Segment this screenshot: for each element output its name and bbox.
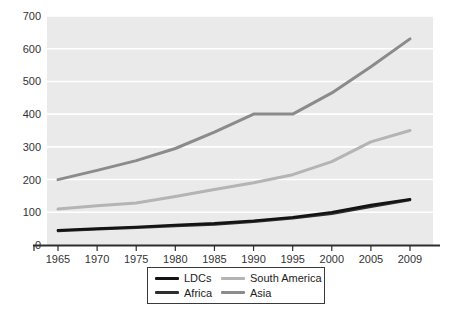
y-label-300: 300: [23, 141, 41, 153]
legend-label-south-america: South America: [250, 271, 322, 285]
x-label-1975: 1975: [124, 253, 148, 265]
x-label-1970: 1970: [85, 253, 109, 265]
x-label-1980: 1980: [163, 253, 187, 265]
legend-item-asia: Asia: [221, 286, 322, 300]
y-label-100: 100: [23, 206, 41, 218]
x-label-2009: 2009: [398, 253, 422, 265]
y-label-400: 400: [23, 108, 41, 120]
plot-area: [47, 16, 433, 245]
x-label-1965: 1965: [46, 253, 70, 265]
legend-label-ldcs: LDCs: [184, 271, 212, 285]
africa-line-swatch: [155, 291, 179, 294]
y-axis-labels: 0100200300400500600700: [23, 10, 41, 251]
south-america-line-swatch: [221, 277, 245, 280]
y-label-500: 500: [23, 75, 41, 87]
chart-legend: LDCs South America Africa Asia: [147, 267, 325, 304]
line-chart: 1965197019751980198519901995200020052009…: [0, 0, 449, 317]
legend-label-africa: Africa: [184, 286, 212, 300]
x-label-1990: 1990: [241, 253, 265, 265]
legend-item-ldcs: LDCs: [155, 271, 221, 285]
y-label-600: 600: [23, 43, 41, 55]
x-axis-labels: 1965197019751980198519901995200020052009: [46, 253, 422, 265]
y-label-200: 200: [23, 174, 41, 186]
asia-line-swatch: [221, 291, 245, 294]
y-label-0: 0: [35, 239, 41, 251]
x-label-2000: 2000: [320, 253, 344, 265]
legend-label-asia: Asia: [250, 286, 271, 300]
x-label-2005: 2005: [359, 253, 383, 265]
legend-item-south-america: South America: [221, 271, 322, 285]
y-label-700: 700: [23, 10, 41, 22]
legend-item-africa: Africa: [155, 286, 221, 300]
x-label-1995: 1995: [280, 253, 304, 265]
x-axis-ticks: [34, 246, 410, 251]
x-label-1985: 1985: [202, 253, 226, 265]
ldcs-line-swatch: [155, 277, 179, 280]
